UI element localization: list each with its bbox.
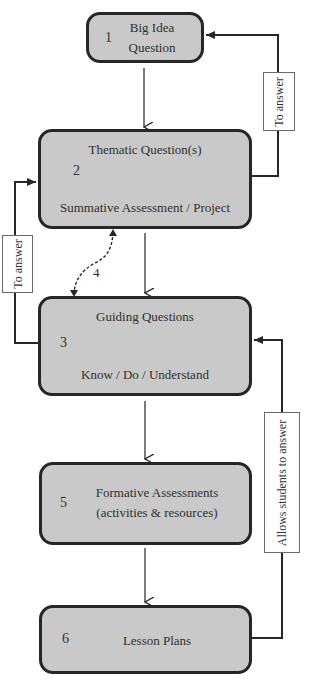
node-number: 2 <box>73 163 80 179</box>
node-top-label: Thematic Question(s) <box>41 140 249 160</box>
node-formative-assessments: 5 Formative Assessments (activities & re… <box>39 462 252 545</box>
node-number: 3 <box>60 335 67 351</box>
node-label: Formative Assessments (activities & reso… <box>82 483 232 523</box>
node-bottom-label: Summative Assessment / Project <box>41 198 249 218</box>
node-number: 5 <box>60 495 67 511</box>
node-thematic-questions: 2 Thematic Question(s) Summative Assessm… <box>38 129 252 229</box>
node-lesson-plans: 6 Lesson Plans <box>39 605 252 674</box>
edge-label-to-answer-left: To answer <box>2 235 33 293</box>
step-label-4: 4 <box>93 265 100 281</box>
node-bottom-label: Know / Do / Understand <box>41 365 249 385</box>
node-guiding-questions: 3 Guiding Questions Know / Do / Understa… <box>38 296 252 396</box>
edge-label-to-answer-right: To answer <box>263 72 295 131</box>
node-big-idea-question: 1 Big Idea Question <box>86 12 204 63</box>
node-top-label: Guiding Questions <box>41 307 249 327</box>
dashed-arrow-4 <box>74 232 113 293</box>
node-label: Big Idea Question <box>122 18 182 58</box>
node-label: Lesson Plans <box>102 631 212 651</box>
node-number: 1 <box>105 30 112 46</box>
edge-label-allows-students: Allows students to answer <box>264 412 300 553</box>
node-number: 6 <box>62 631 69 647</box>
